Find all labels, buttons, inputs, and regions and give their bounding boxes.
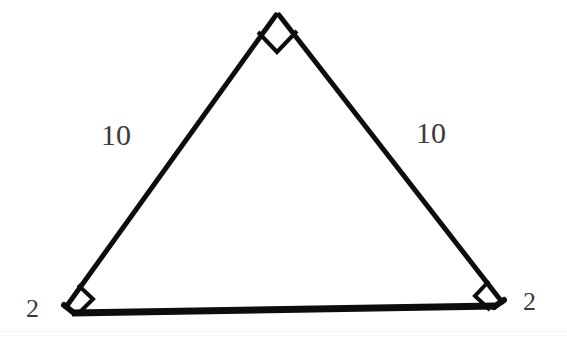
triangle-diagram-svg — [0, 0, 567, 339]
geometry-figure: 10 10 2 2 — [0, 0, 567, 339]
right-leg-line — [279, 15, 502, 302]
base-line — [72, 306, 496, 313]
left-base-length-label: 2 — [26, 296, 39, 322]
left-leg-line — [66, 15, 276, 307]
right-leg-length-label: 10 — [416, 118, 446, 148]
left-leg-length-label: 10 — [101, 120, 131, 150]
scan-artifact-line — [0, 335, 567, 336]
scan-artifact-line — [0, 331, 567, 332]
right-base-length-label: 2 — [523, 289, 536, 315]
